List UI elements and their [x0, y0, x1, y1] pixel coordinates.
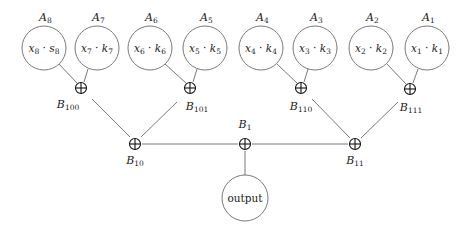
oplus-icon — [350, 139, 361, 150]
edge-B101-B10 — [141, 102, 177, 137]
sum-node-B100: B100 — [56, 83, 87, 113]
edge-B111-B11 — [361, 102, 398, 138]
leaf-label: A8 — [38, 11, 52, 25]
sum-node-label: B100 — [56, 98, 80, 112]
edge-A2-B111 — [387, 64, 406, 84]
leaf-label: A7 — [91, 11, 105, 25]
sum-node-label: B101 — [185, 100, 208, 114]
tree-adder-diagram: A8 x8 · s8 A7 x7 · k7 A6 x6 · k6 A5 x5 ·… — [0, 0, 467, 235]
leaf-A2: A2 x2 · k2 — [349, 11, 393, 70]
leaf-label: A6 — [144, 11, 158, 25]
leaf-label: A2 — [365, 11, 379, 25]
diagram-canvas: A8 x8 · s8 A7 x7 · k7 A6 x6 · k6 A5 x5 ·… — [0, 0, 467, 235]
sum-node-label: B111 — [399, 101, 422, 115]
oplus-icon — [240, 139, 251, 150]
sum-node-label: B1 — [238, 118, 252, 132]
edge-B100-B10 — [92, 99, 130, 137]
leaf-label: A1 — [421, 11, 435, 25]
edge-A6-B101 — [165, 64, 186, 83]
leaf-A4: A4 x4 · k4 — [239, 11, 283, 70]
oplus-icon — [185, 83, 196, 94]
oplus-icon — [405, 84, 416, 95]
oplus-icon — [130, 139, 141, 150]
sum-node-B111: B111 — [399, 84, 422, 116]
edge-A8-B100 — [59, 64, 77, 83]
edge-A5-B101 — [193, 69, 197, 82]
output-node: output — [222, 175, 268, 221]
leaf-A8: A8 x8 · s8 — [22, 11, 66, 70]
leaf-label: A5 — [199, 11, 213, 25]
leaf-A3: A3 x3 · k3 — [293, 11, 337, 70]
output-label: output — [227, 192, 263, 204]
leaf-A6: A6 x6 · k6 — [128, 11, 172, 70]
sum-node-B10: B10 — [125, 139, 144, 169]
edge-A1-B111 — [413, 69, 418, 83]
leaf-A1: A1 x1 · k1 — [405, 11, 449, 70]
leaf-label: A3 — [309, 11, 323, 25]
oplus-icon — [296, 83, 307, 94]
oplus-icon — [76, 83, 87, 94]
sum-node-label: B11 — [345, 154, 364, 168]
sum-node-B101: B101 — [185, 83, 209, 115]
edge-B110-B11 — [312, 99, 350, 138]
sum-node-label: B110 — [289, 100, 313, 114]
leaf-label: A4 — [255, 11, 269, 25]
edge-A3-B110 — [304, 69, 308, 82]
leaf-A5: A5 x5 · k5 — [183, 11, 227, 70]
sum-node-B11: B11 — [345, 139, 364, 169]
sum-node-B110: B110 — [289, 83, 313, 115]
edge-A4-B110 — [277, 64, 297, 83]
leaf-A7: A7 x7 · k7 — [75, 11, 119, 70]
edge-A7-B100 — [84, 69, 88, 82]
sum-node-label: B10 — [125, 154, 144, 168]
sum-node-B1: B1 — [238, 118, 252, 150]
